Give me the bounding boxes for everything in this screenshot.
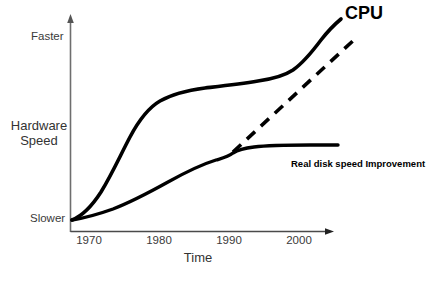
y-axis-arrow-icon xyxy=(67,14,74,23)
x-axis-arrow-icon xyxy=(325,228,334,235)
disk-speed-series-label: Real disk speed Improvement xyxy=(291,157,425,170)
cpu-series-label: CPU xyxy=(345,7,383,20)
y-axis-title-line2: Speed xyxy=(10,134,68,148)
x-axis-title: Time xyxy=(176,251,220,265)
cpu-trend-line xyxy=(72,19,341,220)
cpu-projection-dashed-line xyxy=(233,38,356,152)
y-axis-bottom-tick-label: Slower xyxy=(30,212,65,225)
x-axis-tick-label-1980: 1980 xyxy=(144,234,174,247)
x-axis-tick-label-1970: 1970 xyxy=(74,234,104,247)
hardware-speed-chart: Faster Slower Hardware Speed Time 1970 1… xyxy=(0,0,433,281)
y-axis xyxy=(67,14,74,232)
x-axis-tick-label-2000: 2000 xyxy=(284,234,314,247)
x-axis-tick-label-1990: 1990 xyxy=(214,234,244,247)
y-axis-title-line1: Hardware xyxy=(10,119,68,133)
y-axis-top-tick-label: Faster xyxy=(31,30,64,43)
